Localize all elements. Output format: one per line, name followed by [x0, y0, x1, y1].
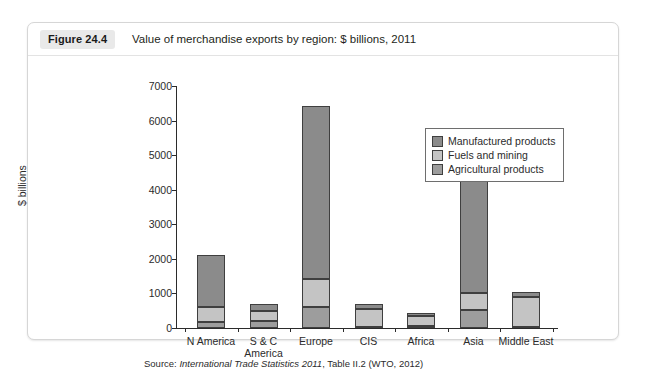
x-tick-mark — [448, 328, 449, 332]
y-axis-line — [176, 86, 177, 329]
bar-segment-manufactured-products — [512, 292, 540, 297]
chart-plot-area: $ billions 01000200030004000500060007000… — [28, 56, 620, 340]
legend-label: Agricultural products — [448, 163, 544, 175]
figure-header: Figure 24.4 Value of merchandise exports… — [28, 23, 618, 56]
bar-segment-fuels-and-mining — [250, 311, 278, 322]
y-tick-label: 5000 — [128, 150, 172, 160]
y-tick-label: 3000 — [128, 219, 172, 229]
bar-segment-fuels-and-mining — [302, 279, 330, 307]
bar-segment-manufactured-products — [250, 304, 278, 310]
bar-middle-east — [512, 292, 540, 328]
x-tick-mark — [553, 328, 554, 332]
bar-segment-manufactured-products — [355, 304, 383, 308]
y-tick-label: 4000 — [128, 185, 172, 195]
legend-item: Agricultural products — [432, 162, 555, 176]
x-label-middle-east: Middle East — [481, 335, 571, 347]
y-tick-mark — [172, 328, 176, 329]
bar-cis — [355, 304, 383, 328]
x-tick-mark — [185, 328, 186, 332]
y-tick-label: 2000 — [128, 254, 172, 264]
legend-swatch-icon — [432, 136, 443, 147]
source-suffix: , Table II.2 (WTO, 2012) — [322, 358, 423, 369]
legend-label: Manufactured products — [448, 135, 555, 147]
bar-segment-fuels-and-mining — [407, 316, 435, 326]
y-tick-mark — [172, 224, 176, 225]
legend-item: Fuels and mining — [432, 148, 555, 162]
y-tick-mark — [172, 86, 176, 87]
y-tick-mark — [172, 190, 176, 191]
x-tick-mark — [290, 328, 291, 332]
y-axis-title: $ billions — [16, 165, 28, 206]
y-tick-mark — [172, 121, 176, 122]
legend-item: Manufactured products — [432, 134, 555, 148]
figure-title: Value of merchandise exports by region: … — [132, 33, 416, 45]
source-title: International Trade Statistics 2011 — [179, 358, 322, 369]
bar-segment-fuels-and-mining — [512, 297, 540, 327]
bar-segment-manufactured-products — [197, 255, 225, 307]
y-tick-label: 6000 — [128, 116, 172, 126]
y-tick-mark — [172, 293, 176, 294]
source-note: Source: International Trade Statistics 2… — [144, 358, 423, 369]
bar-segment-fuels-and-mining — [355, 309, 383, 327]
figure-card: Figure 24.4 Value of merchandise exports… — [27, 22, 619, 340]
bar-segment-fuels-and-mining — [460, 293, 488, 310]
x-tick-mark — [343, 328, 344, 332]
source-prefix: Source: — [144, 358, 179, 369]
y-tick-mark — [172, 259, 176, 260]
bar-segment-manufactured-products — [407, 313, 435, 315]
y-tick-mark — [172, 155, 176, 156]
bar-n-america — [197, 255, 225, 328]
x-tick-mark — [500, 328, 501, 332]
chart-legend: Manufactured productsFuels and miningAgr… — [425, 128, 564, 182]
x-tick-mark — [238, 328, 239, 332]
bar-segment-agricultural-products — [302, 307, 330, 328]
bar-segment-agricultural-products — [250, 321, 278, 328]
bar-europe — [302, 106, 330, 328]
bar-segment-agricultural-products — [197, 322, 225, 328]
bar-segment-manufactured-products — [302, 106, 330, 279]
legend-label: Fuels and mining — [448, 149, 528, 161]
bar-segment-fuels-and-mining — [197, 307, 225, 322]
y-tick-label: 0 — [128, 323, 172, 333]
figure-badge: Figure 24.4 — [40, 30, 115, 49]
bar-segment-agricultural-products — [460, 310, 488, 328]
bar-s-c-america — [250, 304, 278, 328]
legend-swatch-icon — [432, 164, 443, 175]
bar-africa — [407, 313, 435, 328]
legend-swatch-icon — [432, 150, 443, 161]
stacked-bar-chart: $ billions 01000200030004000500060007000… — [28, 56, 620, 340]
x-tick-mark — [395, 328, 396, 332]
y-tick-label: 1000 — [128, 288, 172, 298]
bar-segment-agricultural-products — [407, 326, 435, 328]
y-tick-label: 7000 — [128, 81, 172, 91]
